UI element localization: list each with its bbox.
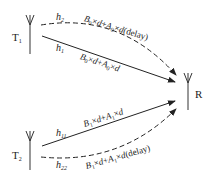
antenna-t1-icon — [26, 15, 34, 54]
label-h1: h1 — [56, 43, 64, 54]
antenna-r-icon — [184, 73, 192, 110]
antenna-t2-icon — [26, 131, 34, 170]
label-h2: h2 — [56, 12, 64, 23]
diagram-canvas: T1 T2 R h2 h1 h11 h22 B0×d+A0×d(delay) B… — [0, 0, 210, 180]
node-label-t1: T1 — [12, 32, 22, 44]
label-h11: h11 — [56, 128, 67, 139]
label-h22: h22 — [56, 160, 67, 171]
node-label-t2: T2 — [12, 150, 22, 162]
node-label-r: R — [195, 89, 202, 100]
path-h11-solid — [42, 101, 175, 146]
